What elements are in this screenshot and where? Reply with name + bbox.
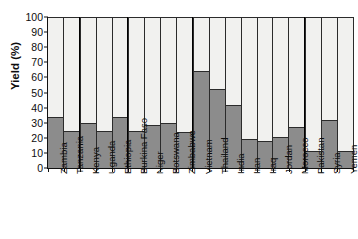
- bar-segment-remainder: [64, 17, 79, 131]
- bar-segment-remainder: [258, 17, 273, 141]
- bar-segment-remainder: [242, 17, 257, 139]
- x-axis-label: Uganda: [107, 141, 117, 174]
- x-axis-label: Morocco: [300, 138, 310, 174]
- bar-segment-remainder: [194, 17, 209, 71]
- x-axis-label: Iraq: [268, 158, 278, 174]
- bar-column[interactable]: [257, 17, 274, 168]
- bar-segment-remainder: [338, 17, 353, 151]
- x-axis-label: Vietnam: [204, 139, 214, 174]
- bar-segment-remainder: [48, 17, 63, 117]
- bar-segment-remainder: [289, 17, 304, 127]
- x-axis-label: Yemen: [349, 145, 358, 174]
- bar-segment-remainder: [145, 17, 160, 125]
- x-axis-label: Zimbabwe: [187, 130, 197, 174]
- x-axis-labels: ZambiaTanzaniaKenyaUgandaEthiopiaBurkina…: [47, 174, 353, 238]
- x-axis-label: Niger: [155, 151, 165, 174]
- bar-segment-remainder: [97, 17, 112, 131]
- bar-segment-remainder: [81, 17, 96, 123]
- x-axis-label: India: [236, 153, 246, 174]
- x-axis-label: Zambia: [59, 142, 69, 174]
- x-axis-label: Iran: [252, 158, 262, 174]
- bar-segment-remainder: [113, 17, 128, 117]
- x-axis-label: Kenya: [91, 147, 101, 174]
- y-axis-title: Yield (%): [9, 21, 21, 111]
- bar-segment-remainder: [161, 17, 176, 123]
- x-axis-label: Pakistan: [316, 138, 326, 174]
- bar-segment-remainder: [129, 17, 144, 131]
- bar-segment-remainder: [322, 17, 337, 120]
- bar-segment-remainder: [273, 17, 288, 137]
- bar-segment-remainder: [177, 17, 192, 132]
- x-axis-label: Syria: [332, 152, 342, 174]
- x-axis-label: Botswana: [171, 132, 181, 174]
- x-axis-label: Tanzania: [75, 136, 85, 174]
- x-axis-label: Jordan: [284, 145, 294, 174]
- x-axis-label: Burkina Faso: [139, 118, 149, 174]
- chart-container: Yield (%) 1009080706050403020100 ZambiaT…: [0, 0, 358, 239]
- bar-segment-remainder: [306, 17, 321, 151]
- x-axis-label: Ethiopia: [123, 140, 133, 174]
- x-axis-label: Thailand: [220, 138, 230, 174]
- bar-segment-remainder: [210, 17, 225, 89]
- bar-segment-remainder: [226, 17, 241, 105]
- x-axis-tick-mark: [48, 168, 49, 172]
- bar-column[interactable]: [241, 17, 258, 168]
